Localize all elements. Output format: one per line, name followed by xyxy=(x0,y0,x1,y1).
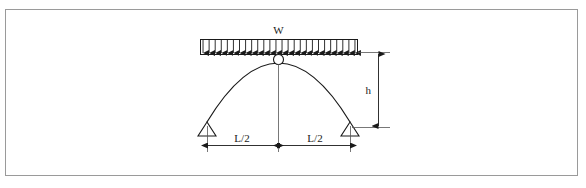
load-label: W xyxy=(273,24,284,36)
pinned-support-right xyxy=(341,122,359,136)
rise-dimension-group: h xyxy=(352,53,390,128)
support-triangle-right xyxy=(341,122,359,136)
span-right-label: L/2 xyxy=(307,132,322,144)
span-left-label: L/2 xyxy=(234,132,249,144)
arch-diagram-svg: L/2 L/2 h W xyxy=(0,0,586,188)
crown-hinge-icon xyxy=(274,55,284,65)
figure-root: L/2 L/2 h W xyxy=(0,0,586,188)
load-arrow-set xyxy=(203,40,355,54)
distributed-load-group xyxy=(200,40,358,55)
pinned-support-left xyxy=(198,122,216,136)
span-dimension-group: L/2 L/2 xyxy=(208,64,351,152)
support-triangle-left xyxy=(198,122,216,136)
rise-label: h xyxy=(366,84,372,96)
